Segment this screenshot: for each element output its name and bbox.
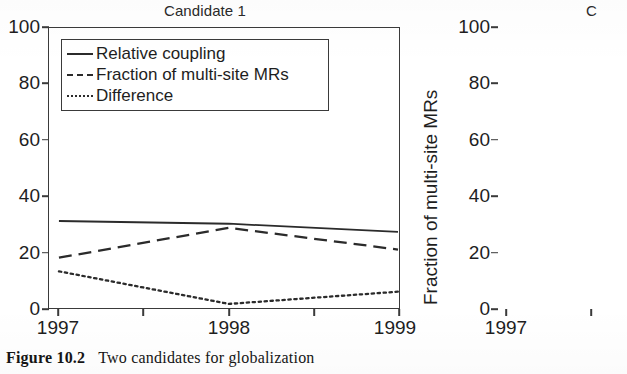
x-tick-mark-minor bbox=[313, 309, 315, 316]
figure-caption-text: Two candidates for globalization bbox=[98, 349, 314, 366]
x-tick-mark bbox=[228, 309, 230, 316]
y-tick-label: 60 bbox=[0, 129, 40, 151]
series-line bbox=[59, 228, 398, 258]
y-tick-label: 80 bbox=[0, 72, 40, 94]
legend-label: Relative coupling bbox=[96, 45, 225, 63]
series-line bbox=[59, 221, 398, 232]
chart-panel-candidate-2: C Fraction of multi-site MRs 100 80 60 4… bbox=[410, 0, 627, 345]
legend-left: Relative coupling Fraction of multi-site… bbox=[61, 39, 329, 111]
y-tick-mark bbox=[491, 83, 498, 85]
y-tick-label: 100 bbox=[0, 16, 40, 38]
x-tick-label: 1997 bbox=[37, 317, 79, 339]
y-tick-mark bbox=[491, 252, 498, 254]
y-tick-label: 40 bbox=[450, 185, 490, 207]
y-tick-label: 80 bbox=[450, 72, 490, 94]
line-dashed-icon bbox=[67, 69, 93, 81]
panel-title-left: Candidate 1 bbox=[0, 2, 410, 19]
y-tick-label: 100 bbox=[450, 16, 490, 38]
x-tick-mark bbox=[505, 309, 507, 316]
y-tick-label: 20 bbox=[0, 242, 40, 264]
x-tick-mark-minor bbox=[590, 309, 592, 316]
x-tick-mark-minor bbox=[142, 309, 144, 316]
x-tick-label: 1998 bbox=[208, 317, 250, 339]
y-tick-mark bbox=[491, 26, 498, 28]
figure-caption: Figure 10.2Two candidates for globalizat… bbox=[6, 349, 621, 367]
line-solid-icon bbox=[67, 48, 93, 60]
x-tick-label: 1997 bbox=[485, 317, 527, 339]
series-line bbox=[59, 271, 398, 304]
x-tick-mark bbox=[398, 309, 400, 316]
legend-item: Fraction of multi-site MRs bbox=[67, 64, 323, 85]
y-axis-label-right: Fraction of multi-site MRs bbox=[420, 90, 442, 305]
y-tick-mark bbox=[491, 139, 498, 141]
legend-label: Difference bbox=[96, 87, 173, 105]
figure-caption-label: Figure 10.2 bbox=[6, 349, 85, 366]
x-tick-mark bbox=[57, 309, 59, 316]
panel-title-right: C bbox=[586, 2, 627, 19]
y-tick-label: 60 bbox=[450, 129, 490, 151]
figure-10-2: Candidate 1 100 80 60 40 20 0 Relative c… bbox=[0, 0, 627, 374]
plot-area-left: Relative coupling Fraction of multi-site… bbox=[48, 27, 400, 309]
legend-item: Difference bbox=[67, 85, 323, 106]
legend-label: Fraction of multi-site MRs bbox=[96, 66, 289, 84]
y-tick-label: 20 bbox=[450, 242, 490, 264]
y-tick-label: 0 bbox=[0, 298, 40, 320]
y-tick-mark bbox=[491, 195, 498, 197]
y-tick-mark bbox=[491, 308, 498, 310]
chart-panel-candidate-1: Candidate 1 100 80 60 40 20 0 Relative c… bbox=[0, 0, 410, 345]
line-dotted-icon bbox=[67, 90, 93, 102]
y-tick-label: 40 bbox=[0, 185, 40, 207]
legend-item: Relative coupling bbox=[67, 43, 323, 64]
